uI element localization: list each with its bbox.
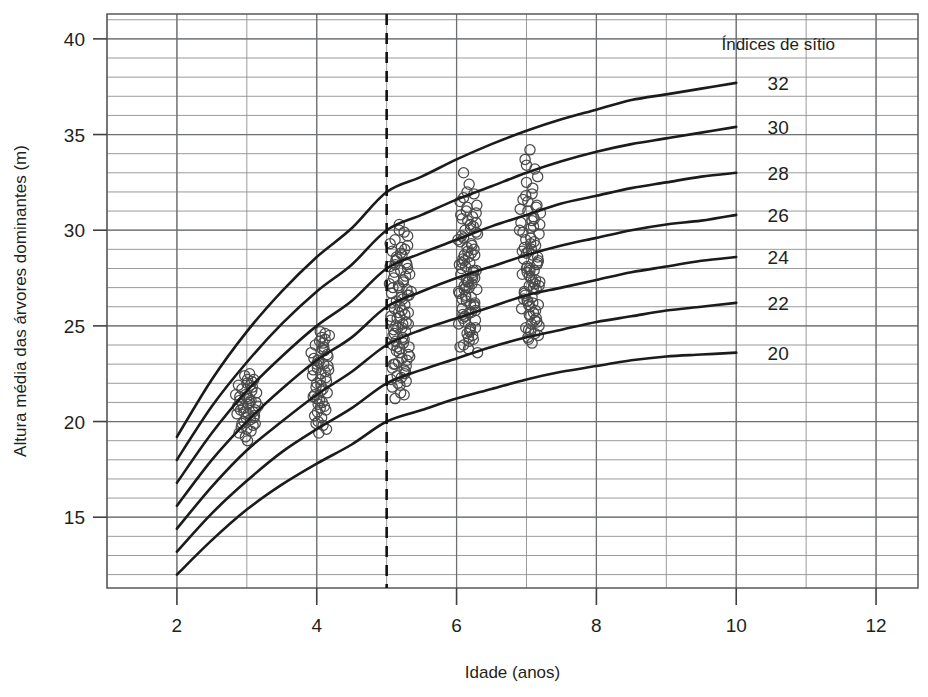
site-index-curve-chart: 24681012 152025303540 32302826242220 Índ… <box>0 0 928 697</box>
curve-label-22: 22 <box>768 293 789 314</box>
legend-title: Índices de sítio <box>721 35 834 54</box>
x-tick-label: 12 <box>865 615 886 636</box>
chart-background <box>0 0 928 697</box>
x-tick-label: 2 <box>172 615 183 636</box>
x-axis-title: Idade (anos) <box>465 663 560 682</box>
y-tick-label: 25 <box>64 316 85 337</box>
x-tick-label: 6 <box>451 615 462 636</box>
x-tick-label: 8 <box>591 615 602 636</box>
curve-label-26: 26 <box>768 205 789 226</box>
y-tick-label: 20 <box>64 412 85 433</box>
y-tick-label: 35 <box>64 125 85 146</box>
curve-label-24: 24 <box>768 247 790 268</box>
curve-label-28: 28 <box>768 163 789 184</box>
x-tick-label: 4 <box>311 615 322 636</box>
y-tick-label: 40 <box>64 29 85 50</box>
y-tick-label: 15 <box>64 507 85 528</box>
curve-label-30: 30 <box>768 117 789 138</box>
y-tick-label: 30 <box>64 220 85 241</box>
chart-figure: 24681012 152025303540 32302826242220 Índ… <box>0 0 928 697</box>
x-tick-label: 10 <box>726 615 747 636</box>
y-axis-title: Altura média das árvores dominantes (m) <box>11 145 30 457</box>
curve-label-32: 32 <box>768 73 789 94</box>
curve-label-20: 20 <box>768 343 789 364</box>
